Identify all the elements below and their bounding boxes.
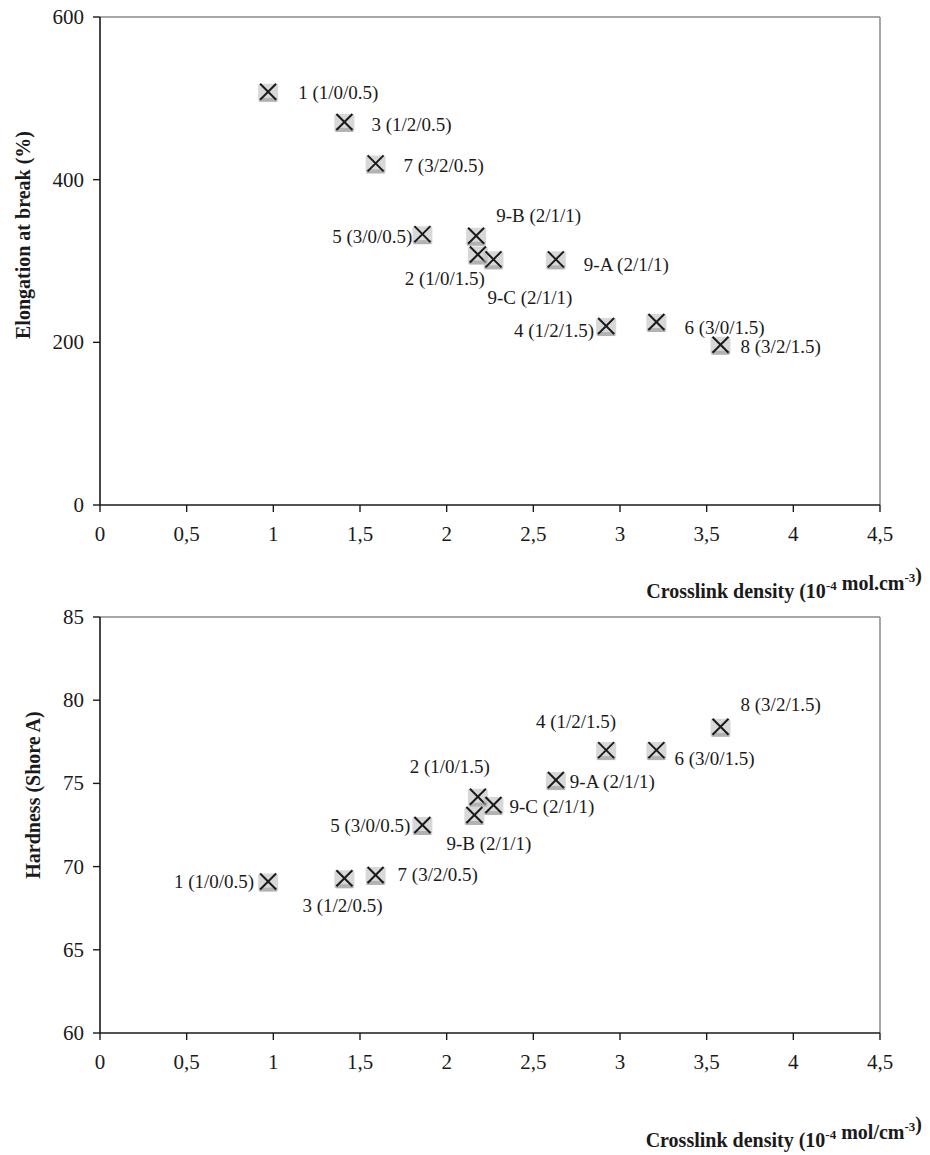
y-tick-label: 75 (63, 771, 84, 795)
point-label: 9-A (2/1/1) (584, 254, 669, 276)
data-point-9-A: 9-A (2/1/1) (546, 251, 669, 276)
y-tick-label: 600 (53, 5, 85, 29)
point-label: 2 (1/0/1.5) (410, 756, 490, 778)
data-point-2: 2 (1/0/1.5) (405, 246, 488, 290)
point-label: 1 (1/0/0.5) (174, 871, 254, 893)
data-point-8: 8 (3/2/1.5) (711, 336, 821, 358)
point-label: 9-B (2/1/1) (446, 833, 531, 855)
figure: 020040060000,511,522,533,544,5Elongation… (0, 0, 930, 1155)
x-tick-label: 2 (441, 522, 452, 546)
data-point-5: 5 (3/0/0.5) (332, 226, 432, 248)
x-tick-label: 1 (268, 1050, 279, 1074)
x-tick-label: 0,5 (174, 1050, 200, 1074)
x-tick-label: 4 (788, 1050, 799, 1074)
data-point-9-B: 9-B (2/1/1) (466, 205, 581, 246)
x-tick-label: 2,5 (520, 1050, 546, 1074)
point-label: 4 (1/2/1.5) (514, 320, 594, 342)
y-tick-label: 200 (53, 330, 85, 354)
data-point-4: 4 (1/2/1.5) (536, 711, 616, 760)
point-label: 9-C (2/1/1) (509, 796, 594, 818)
x-tick-label: 3 (615, 522, 626, 546)
point-label: 4 (1/2/1.5) (536, 711, 616, 733)
data-point-1: 1 (1/0/0.5) (174, 871, 278, 893)
point-label: 8 (3/2/1.5) (741, 336, 821, 358)
y-tick-label: 65 (63, 938, 84, 962)
point-label: 3 (1/2/0.5) (371, 114, 451, 136)
x-tick-label: 3 (615, 1050, 626, 1074)
y-tick-label: 70 (63, 855, 84, 879)
y-tick-label: 85 (63, 605, 84, 629)
x-tick-label: 1,5 (347, 1050, 373, 1074)
data-point-7: 7 (3/2/0.5) (366, 155, 484, 177)
data-point-1: 1 (1/0/0.5) (258, 82, 378, 104)
x-tick-label: 3,5 (694, 522, 720, 546)
point-label: 3 (1/2/0.5) (302, 895, 382, 917)
y-tick-label: 0 (74, 493, 85, 517)
data-point-4: 4 (1/2/1.5) (514, 318, 616, 342)
point-label: 5 (3/0/0.5) (332, 226, 412, 248)
data-point-5: 5 (3/0/0.5) (330, 815, 432, 837)
point-label: 1 (1/0/0.5) (298, 82, 378, 104)
point-label: 5 (3/0/0.5) (330, 815, 410, 837)
x-tick-label: 0,5 (174, 522, 200, 546)
data-point-8: 8 (3/2/1.5) (711, 694, 821, 737)
x-tick-label: 2,5 (520, 522, 546, 546)
x-tick-label: 3,5 (694, 1050, 720, 1074)
point-label: 6 (3/0/1.5) (674, 748, 754, 770)
point-label: 2 (1/0/1.5) (405, 268, 485, 290)
x-tick-label: 2 (441, 1050, 452, 1074)
x-tick-label: 4 (788, 522, 799, 546)
y-tick-label: 80 (63, 688, 84, 712)
data-point-9-C: 9-C (2/1/1) (483, 796, 594, 818)
data-point-7: 7 (3/2/0.5) (366, 864, 478, 886)
x-tick-label: 4,5 (867, 522, 893, 546)
y-axis-title: Hardness (Shore A) (22, 711, 45, 878)
y-tick-label: 60 (63, 1021, 84, 1045)
data-point-3: 3 (1/2/0.5) (334, 114, 451, 136)
x-tick-label: 4,5 (867, 1050, 893, 1074)
data-point-2: 2 (1/0/1.5) (410, 756, 490, 807)
data-point-6: 6 (3/0/1.5) (646, 742, 754, 770)
point-label: 9-C (2/1/1) (487, 287, 572, 309)
x-tick-label: 0 (95, 522, 106, 546)
point-label: 9-A (2/1/1) (570, 771, 655, 793)
x-tick-label: 0 (95, 1050, 106, 1074)
y-tick-label: 400 (53, 168, 85, 192)
point-label: 7 (3/2/0.5) (398, 864, 478, 886)
x-tick-label: 1 (268, 522, 279, 546)
point-label: 9-B (2/1/1) (496, 205, 581, 227)
y-axis-title: Elongation at break (%) (12, 131, 35, 339)
hardness-vs-crosslink-chart: 60657075808500,511,522,533,544,5Hardness… (22, 605, 922, 1152)
x-tick-label: 1,5 (347, 522, 373, 546)
x-axis-title: Crosslink density (10-4 mol.cm-3) (646, 564, 922, 603)
point-label: 7 (3/2/0.5) (404, 155, 484, 177)
x-axis-title: Crosslink density (10-4 mol/cm-3) (646, 1113, 922, 1152)
point-label: 8 (3/2/1.5) (741, 694, 821, 716)
elongation-vs-crosslink-chart: 020040060000,511,522,533,544,5Elongation… (12, 5, 922, 603)
data-point-9-A: 9-A (2/1/1) (546, 771, 655, 793)
